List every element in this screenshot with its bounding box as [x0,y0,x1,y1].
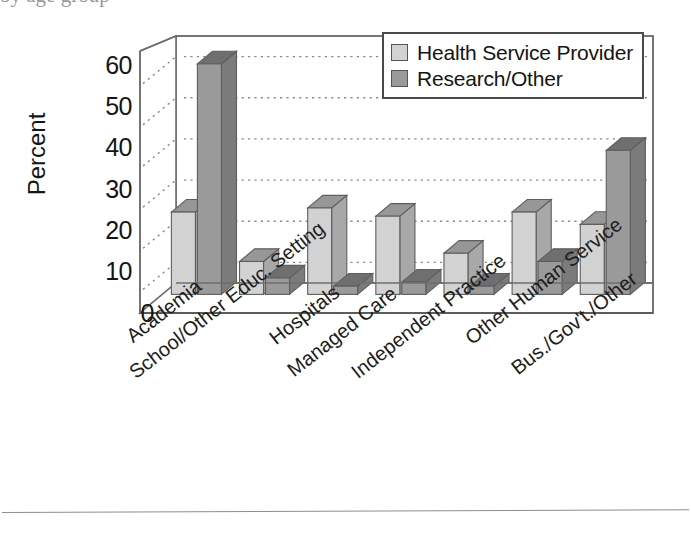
chart-legend: Health Service Provider Research/Other [382,32,644,99]
legend-item: Health Service Provider [391,39,634,65]
bar-research-other [197,51,236,294]
bar-front-face [402,282,426,294]
legend-label: Research/Other [417,68,562,89]
bar-side-face [221,51,236,294]
y-tick-label: 50 [88,94,132,119]
chart-left-wall [140,36,176,313]
legend-item: Research/Other [391,65,634,91]
legend-swatch-health-service-provider [391,44,408,61]
legend-swatch-research-other [391,70,408,87]
bar-front-face [197,64,221,295]
y-tick-label: 10 [88,259,132,284]
y-tick-label: 60 [88,53,132,78]
legend-label: Health Service Provider [417,42,633,63]
bar-side-face [630,138,645,295]
y-tick-label: 40 [88,135,132,160]
y-tick-label: 20 [88,218,132,243]
y-axis-label: Percent [23,84,51,224]
y-tick-label: 30 [88,177,132,202]
bar-chart-figure: 0102030405060 Percent AcademiaSchool/Oth… [0,0,691,533]
